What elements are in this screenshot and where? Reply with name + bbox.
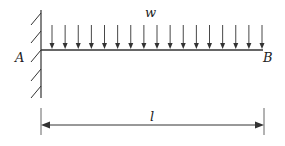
distributed-load-arrows bbox=[50, 25, 265, 49]
load-label: w bbox=[145, 5, 156, 20]
free-end-label: B bbox=[262, 50, 273, 65]
load-arrow-head-icon bbox=[168, 43, 173, 49]
load-arrow-head-icon bbox=[115, 43, 120, 49]
cantilever-beam-diagram: w A B l bbox=[0, 0, 285, 146]
load-arrow-head-icon bbox=[63, 43, 68, 49]
load-arrow-head-icon bbox=[155, 43, 160, 49]
load-arrow-head-icon bbox=[128, 43, 133, 49]
load-arrow-head-icon bbox=[207, 43, 212, 49]
length-dimension: l bbox=[41, 108, 264, 135]
load-arrow-head-icon bbox=[260, 43, 265, 49]
load-arrow-head-icon bbox=[220, 43, 225, 49]
length-label: l bbox=[150, 109, 154, 124]
load-arrow-head-icon bbox=[102, 43, 107, 49]
load-arrow-head-icon bbox=[246, 43, 251, 49]
fixed-wall-support bbox=[31, 10, 41, 98]
dimension-arrow-left-icon bbox=[41, 122, 50, 129]
wall-hatching bbox=[31, 13, 41, 98]
load-arrow-head-icon bbox=[181, 43, 186, 49]
load-arrow-head-icon bbox=[50, 43, 55, 49]
load-arrow-head-icon bbox=[233, 43, 238, 49]
load-arrow-head-icon bbox=[141, 43, 146, 49]
load-arrow-head-icon bbox=[76, 43, 81, 49]
load-arrow-head-icon bbox=[194, 43, 199, 49]
load-arrow-head-icon bbox=[89, 43, 94, 49]
fixed-end-label: A bbox=[14, 50, 24, 65]
dimension-arrow-right-icon bbox=[255, 122, 264, 129]
